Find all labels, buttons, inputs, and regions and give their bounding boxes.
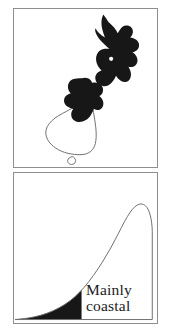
lake-marker <box>109 57 113 61</box>
annotation-line-2: coastal <box>86 298 132 314</box>
new-zealand-map <box>14 9 157 167</box>
altitude-profile-panel: Mainly coastal <box>13 172 158 324</box>
mainly-coastal-fill <box>15 290 82 320</box>
figure: Mainly coastal <box>0 0 170 331</box>
mainly-coastal-annotation: Mainly coastal <box>86 282 132 314</box>
distribution-map-panel <box>13 8 158 168</box>
filled-distribution-area <box>64 14 139 122</box>
annotation-line-1: Mainly <box>86 282 132 298</box>
northern-south-island-filled <box>64 78 103 122</box>
north-island-filled <box>95 14 139 86</box>
stewart-island-outline <box>68 157 76 165</box>
